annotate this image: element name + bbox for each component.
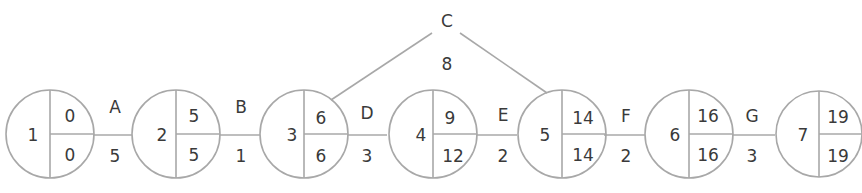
node-6	[645, 90, 733, 178]
activity-c-name: C	[441, 11, 453, 31]
node-7-id: 7	[798, 125, 809, 145]
activity-c-duration: 8	[442, 54, 453, 74]
node-4-latest: 12	[442, 146, 464, 166]
activity-d-name: D	[360, 103, 373, 123]
activity-f-name: F	[621, 106, 631, 126]
node-1-earliest: 0	[65, 106, 76, 126]
activity-e-duration: 2	[498, 146, 509, 166]
activity-d-duration: 3	[362, 146, 373, 166]
node-1-latest: 0	[65, 145, 76, 165]
activity-b-name: B	[235, 97, 247, 117]
node-3	[260, 90, 348, 178]
node-2-latest: 5	[189, 145, 200, 165]
activity-a-duration: 5	[110, 146, 121, 166]
node-3-earliest: 6	[316, 108, 327, 128]
activity-b-duration: 1	[236, 146, 247, 166]
node-7-latest: 19	[827, 146, 849, 166]
node-2-earliest: 5	[189, 106, 200, 126]
node-5-id: 5	[540, 125, 551, 145]
node-3-latest: 6	[316, 146, 327, 166]
node-7	[776, 91, 862, 177]
node-3-id: 3	[287, 125, 298, 145]
node-6-id: 6	[670, 125, 681, 145]
network-diagram: 1 0 0 2 5 5 3 6 6 4 9 12 5 14 14 6 16 16…	[0, 0, 862, 193]
node-1-id: 1	[28, 125, 39, 145]
node-2-id: 2	[157, 125, 168, 145]
node-5-earliest: 14	[572, 108, 594, 128]
node-5-latest: 14	[572, 145, 594, 165]
node-7-earliest: 19	[827, 107, 849, 127]
node-2	[132, 90, 220, 178]
activity-c-line	[331, 33, 432, 100]
activity-e-name: E	[498, 105, 509, 125]
activity-c-line-right	[460, 33, 547, 93]
node-6-earliest: 16	[697, 106, 719, 126]
node-6-latest: 16	[697, 145, 719, 165]
node-4-id: 4	[416, 125, 427, 145]
activity-f-duration: 2	[621, 146, 632, 166]
node-1	[6, 90, 94, 178]
activity-a-name: A	[109, 97, 121, 117]
node-4-earliest: 9	[445, 108, 456, 128]
activity-g-duration: 3	[747, 146, 758, 166]
activity-g-name: G	[745, 106, 758, 126]
